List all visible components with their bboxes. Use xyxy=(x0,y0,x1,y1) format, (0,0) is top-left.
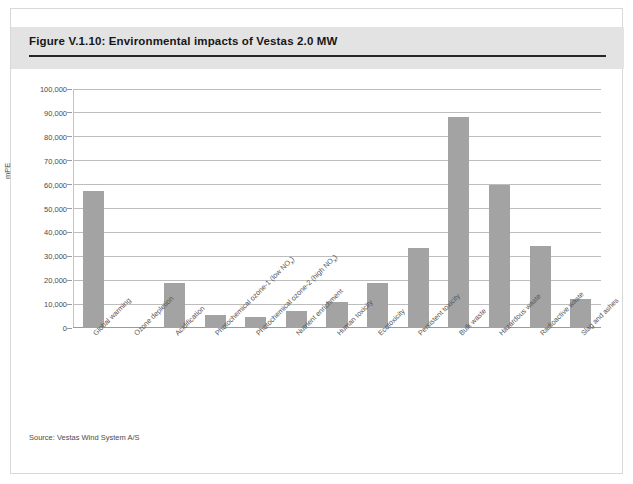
figure-header-band: Figure V.1.10: Environmental impacts of … xyxy=(11,27,624,69)
bar-slot xyxy=(520,89,561,328)
y-axis-tick-mark xyxy=(67,208,72,209)
bar[interactable] xyxy=(489,185,510,328)
source-note: Source: Vestas Wind System A/S xyxy=(29,433,139,442)
y-axis-tick-mark xyxy=(67,184,72,185)
bar-slot xyxy=(73,89,114,328)
bar[interactable] xyxy=(83,191,104,328)
bar-slot xyxy=(479,89,520,328)
y-axis-tick-label: 80,000 xyxy=(44,132,67,141)
figure-title: Figure V.1.10: Environmental impacts of … xyxy=(29,35,338,47)
y-axis-tick-column: 010,00020,00030,00040,00050,00060,00070,… xyxy=(11,89,67,328)
bar-slot xyxy=(195,89,236,328)
y-axis-tick-label: 70,000 xyxy=(44,156,67,165)
y-axis-tick-label: 0 xyxy=(63,324,67,333)
chart-area: mPE 010,00020,00030,00040,00050,00060,00… xyxy=(11,69,624,475)
y-axis-tick-mark xyxy=(67,112,72,113)
y-axis-tick-label: 40,000 xyxy=(44,228,67,237)
bar-slot xyxy=(439,89,480,328)
bar-slot xyxy=(114,89,155,328)
x-axis-label-layer: Global warmingOzone depletionAcidificati… xyxy=(73,331,601,471)
y-axis-tick-mark xyxy=(67,304,72,305)
y-axis-tick-mark xyxy=(67,232,72,233)
y-axis-tick-mark xyxy=(67,328,72,329)
bar[interactable] xyxy=(530,246,551,328)
y-axis-tick-label: 100,000 xyxy=(40,85,67,94)
y-axis-tick-label: 10,000 xyxy=(44,300,67,309)
bar[interactable] xyxy=(408,248,429,328)
title-divider-rule xyxy=(29,55,606,57)
y-axis-tick-mark xyxy=(67,280,72,281)
y-axis-tick-mark xyxy=(67,160,72,161)
y-axis-tick-mark xyxy=(67,136,72,137)
bar-slot xyxy=(398,89,439,328)
y-axis-tick-mark xyxy=(67,89,72,90)
y-axis-tick-mark xyxy=(67,256,72,257)
y-axis-tick-label: 30,000 xyxy=(44,252,67,261)
y-axis-tick-label: 20,000 xyxy=(44,276,67,285)
figure-container: Figure V.1.10: Environmental impacts of … xyxy=(10,8,623,474)
y-axis-tick-label: 50,000 xyxy=(44,204,67,213)
y-axis-tick-label: 90,000 xyxy=(44,108,67,117)
bar-slot xyxy=(154,89,195,328)
bar-slot xyxy=(357,89,398,328)
y-axis-tick-label: 60,000 xyxy=(44,180,67,189)
